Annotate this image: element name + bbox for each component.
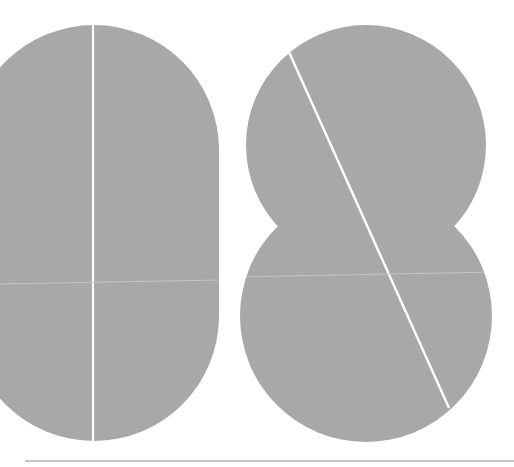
artwork-canvas xyxy=(0,0,514,467)
circles-shape xyxy=(240,25,492,442)
pill-shape xyxy=(0,20,219,446)
pill-body xyxy=(0,25,219,441)
lower-circle xyxy=(240,190,492,442)
